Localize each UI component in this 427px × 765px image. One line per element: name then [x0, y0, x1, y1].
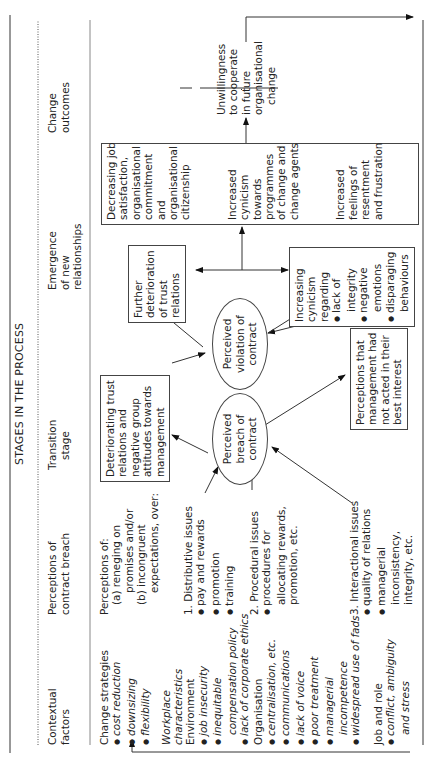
change-outcome-text: Unwillingness to cooperate in future org… [215, 41, 277, 115]
distributive-issues: 1. Distributive issues pay and rewards p… [182, 506, 238, 615]
list-item: pay and rewards [194, 506, 208, 615]
list-item: lack of voice [294, 614, 308, 745]
list-item: poor treatment [308, 614, 322, 745]
list-item: cost reduction [110, 614, 124, 745]
list-item: inequitable [211, 614, 225, 745]
list-item: job insecurity [197, 614, 211, 745]
list-item: negative [357, 252, 371, 322]
list-item: downsizing [125, 614, 139, 745]
list-item: conflict, ambiguity [384, 614, 398, 745]
list-item: promotion [209, 506, 223, 615]
diagram-title: STAGES IN THE PROCESS [14, 323, 26, 465]
list-item: procedures for [260, 506, 274, 615]
interactional-issues: 3. Interactional issues quality of relat… [348, 501, 414, 615]
list-item: lack of [330, 252, 344, 322]
not-acted-box: Perceptions that management had not acte… [350, 328, 408, 430]
list-item: communications [279, 614, 293, 745]
list-item: training [223, 506, 237, 615]
list-item: quality of relations [360, 501, 374, 615]
increasing-cynicism-box: Increasing cynicism regarding lack of in… [289, 247, 415, 327]
perceptions-intro: Perceptions of: (a) reneging on promises… [98, 493, 160, 615]
column-header-perceptions: Perceptions of contract breach [46, 533, 71, 615]
list-item: disparaging [384, 252, 398, 322]
contextual-factors-list: Change strategies cost reduction downsiz… [98, 614, 411, 745]
list-item: managerial [375, 501, 389, 615]
column-header-emergence: Emergence of new relationships [46, 224, 84, 291]
deteriorating-trust-box: Deteriorating trust relations and negati… [100, 375, 170, 482]
emergence-outcomes-box: Decreasing job satisfaction, organisatio… [101, 143, 419, 225]
stages-diagram: STAGES IN THE PROCESS Contextual factors… [0, 0, 427, 765]
list-item: managerial [323, 614, 337, 745]
list-item: lack of corporate ethics [238, 614, 252, 745]
column-header-contextual: Contextual factors [46, 688, 71, 745]
resentment-group: Increased feelings of resentment and fru… [334, 148, 384, 220]
procedural-issues: 2. Procedural issues procedures for allo… [248, 506, 300, 615]
column-header-outcomes: Change outcomes [46, 82, 71, 133]
list-item: centralisation, etc. [265, 614, 279, 745]
perceived-breach-ellipse: Perceived breach of contract [212, 393, 268, 485]
cynicism-programmes-group: Increased cynicism towards programmes of… [226, 148, 300, 220]
satisfaction-group: Decreasing job satisfaction, organisatio… [105, 148, 192, 220]
list-item: widespread use of fads [349, 614, 363, 745]
perceived-violation-ellipse: Perceived violation of contract [212, 298, 268, 390]
list-item: flexibility [139, 614, 153, 745]
further-deterioration-box: Further deterioration of trust relations [128, 245, 186, 323]
column-header-transition: Transition stage [46, 420, 71, 470]
